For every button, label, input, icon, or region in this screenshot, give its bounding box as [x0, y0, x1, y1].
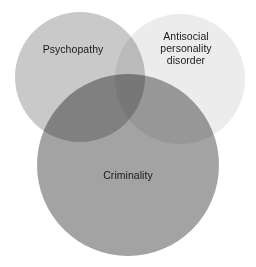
circle-criminality	[37, 74, 219, 256]
venn-label-criminality: Criminality	[68, 170, 188, 182]
venn-label-antisocial-personality-disorder: Antisocial personality disorder	[146, 31, 226, 66]
venn-diagram: Psychopathy Antisocial personality disor…	[0, 0, 256, 267]
venn-label-psychopathy: Psychopathy	[14, 44, 132, 56]
